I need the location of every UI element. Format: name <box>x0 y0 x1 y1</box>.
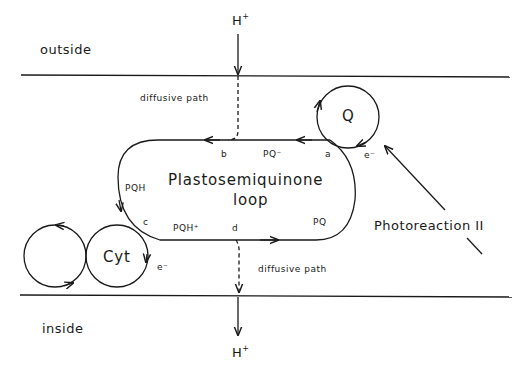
membrane-top-line <box>21 75 510 77</box>
point-c-label: c <box>143 217 148 227</box>
loop-title-line1: Plastosemiquinone <box>168 171 323 189</box>
pqh-label: PQH <box>125 183 146 193</box>
cyt-label: Cyt <box>103 248 131 266</box>
point-b-label: b <box>221 149 227 159</box>
membrane-bottom-line <box>20 295 512 297</box>
photoreaction-label: Photoreaction II <box>374 218 484 233</box>
pq-label: PQ <box>313 217 327 227</box>
point-d-label: d <box>232 223 238 233</box>
left-circle <box>24 225 86 287</box>
electron-cyt-label: e⁻ <box>157 262 168 272</box>
pqh-plus-label: PQH⁺ <box>173 223 199 233</box>
proton-top-label: H+ <box>232 12 249 28</box>
q-label: Q <box>342 107 355 125</box>
outside-label: outside <box>40 42 91 57</box>
point-a-label: a <box>325 149 331 159</box>
cyt-arrow-right <box>146 254 147 262</box>
diffusive-path-bottom-label: diffusive path <box>258 264 327 274</box>
diffusive-path-top <box>228 76 238 140</box>
diffusive-path-top-label: diffusive path <box>140 93 209 103</box>
proton-bottom-label: H+ <box>232 344 249 360</box>
q-arrow-left <box>317 101 320 112</box>
loop-title-line2: loop <box>233 191 268 209</box>
diffusive-path-bottom <box>236 240 239 292</box>
photoreaction-tail <box>467 238 482 254</box>
electron-q-label: e⁻ <box>364 150 375 160</box>
plastosemiquinone-diagram: outside inside H+ diffusive path Plastos… <box>0 0 525 367</box>
left-circle-arrow-top <box>56 225 64 226</box>
inside-label: inside <box>42 321 84 336</box>
photoreaction-arrow <box>385 146 445 210</box>
pq-minus-label: PQ⁻ <box>263 149 282 159</box>
